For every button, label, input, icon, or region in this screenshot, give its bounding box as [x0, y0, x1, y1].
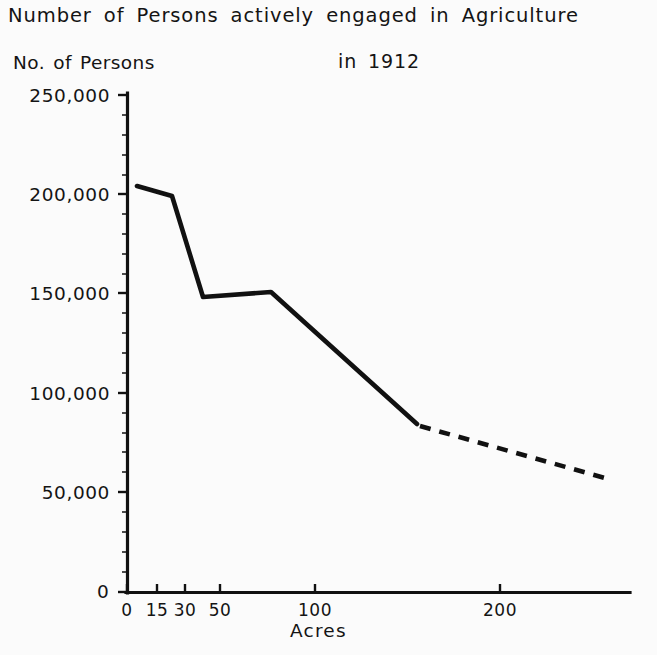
x-axis-ticks — [127, 584, 500, 592]
data-line-solid — [137, 186, 417, 424]
chart-plot-area — [0, 0, 657, 655]
data-line-dashed — [420, 426, 605, 478]
chart-page: Number of Persons actively engaged in Ag… — [0, 0, 657, 655]
